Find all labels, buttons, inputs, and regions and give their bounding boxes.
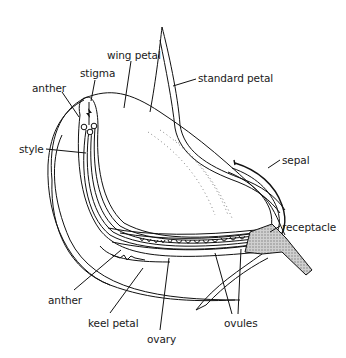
- standard-petal-shape: [150, 27, 285, 213]
- label-standard-petal: standard petal: [198, 73, 273, 84]
- label-anther-bottom: anther: [48, 295, 82, 306]
- label-stigma: stigma: [80, 68, 115, 79]
- label-ovary: ovary: [147, 334, 176, 345]
- label-style: style: [19, 144, 44, 155]
- label-sepal: sepal: [282, 155, 309, 166]
- calyx-lobe: [196, 254, 268, 310]
- label-wing-petal: wing petal: [107, 50, 161, 61]
- label-keel-petal: keel petal: [88, 318, 138, 329]
- label-anther-top: anther: [32, 83, 66, 94]
- label-receptacle: receptacle: [282, 222, 336, 233]
- wing-petal-shape: [51, 93, 285, 301]
- keel-outline: [48, 100, 240, 300]
- flower-diagram: wing petal stigma anther standard petal …: [0, 0, 346, 358]
- label-ovules: ovules: [224, 318, 258, 329]
